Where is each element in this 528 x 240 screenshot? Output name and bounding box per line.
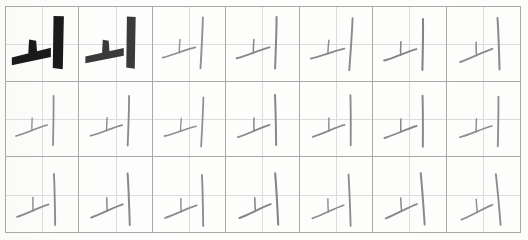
- practice-cell[interactable]: [79, 157, 152, 232]
- practice-cell[interactable]: [6, 157, 79, 232]
- handwritten-character-oe: [300, 161, 373, 232]
- practice-cell[interactable]: [373, 157, 446, 232]
- handwritten-character-oe: [373, 159, 446, 232]
- handwritten-character-oe: [226, 159, 299, 232]
- practice-cell[interactable]: [373, 7, 446, 82]
- practice-cell[interactable]: [300, 157, 373, 232]
- handwritten-character-oe: [447, 160, 520, 232]
- handwriting-practice-sheet: Korean handwriting practice sheet: [0, 0, 528, 240]
- practice-cell[interactable]: [226, 7, 299, 82]
- practice-cell[interactable]: [226, 82, 299, 157]
- practice-cell[interactable]: [447, 7, 520, 82]
- practice-cell[interactable]: [226, 157, 299, 232]
- practice-cell[interactable]: [447, 82, 520, 157]
- practice-cell[interactable]: [373, 82, 446, 157]
- practice-grid: [5, 6, 521, 233]
- handwritten-character-oe: [226, 7, 299, 79]
- handwritten-character-oe: [153, 7, 224, 78]
- practice-cell[interactable]: [300, 7, 373, 82]
- practice-cell[interactable]: [79, 82, 152, 157]
- handwritten-character-oe: [80, 84, 151, 156]
- practice-cell[interactable]: [79, 7, 152, 82]
- handwritten-character-oe: [373, 83, 446, 157]
- practice-cell[interactable]: [153, 82, 226, 157]
- practice-cell[interactable]: [447, 157, 520, 232]
- handwritten-character-oe: [6, 84, 76, 157]
- practice-cell[interactable]: [6, 7, 79, 82]
- practice-cell[interactable]: [153, 7, 226, 82]
- handwritten-character-oe: [6, 161, 79, 232]
- handwritten-character-oe: [301, 7, 373, 79]
- practice-cell[interactable]: [300, 82, 373, 157]
- handwritten-character-oe: [155, 86, 224, 156]
- handwritten-character-oe: [448, 84, 520, 157]
- model-character-oe: [6, 7, 78, 81]
- practice-cell[interactable]: [6, 82, 79, 157]
- model-character-oe: [80, 8, 151, 81]
- handwritten-character-oe: [447, 7, 520, 82]
- handwritten-character-oe: [373, 7, 446, 81]
- practice-cell[interactable]: [153, 157, 226, 232]
- handwritten-character-oe: [153, 162, 226, 232]
- handwritten-character-oe: [226, 82, 299, 157]
- handwritten-character-oe: [300, 82, 373, 157]
- handwritten-character-oe: [79, 160, 152, 232]
